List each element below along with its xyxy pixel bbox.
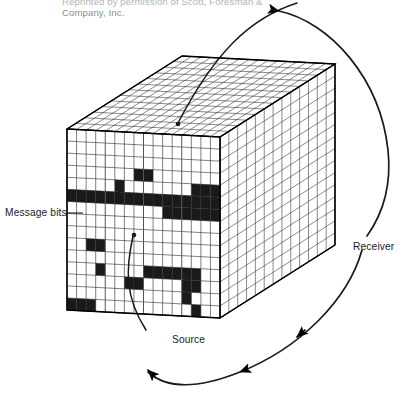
figure-root: Reprinted by permission of Scott, Foresm… — [0, 0, 404, 406]
label-source: Source — [172, 334, 205, 345]
message-bit-cell — [96, 191, 106, 204]
message-bit-cell — [77, 298, 87, 311]
message-bit-cell — [182, 280, 192, 293]
message-bit-cell — [210, 209, 220, 222]
message-bit-cell — [86, 239, 96, 252]
message-bit-cell — [201, 184, 211, 197]
message-bit-cell — [182, 268, 192, 281]
message-bit-cell — [182, 292, 192, 305]
message-bit-cell — [210, 185, 220, 198]
message-bit-cell — [153, 266, 163, 279]
message-bit-cell — [105, 191, 115, 204]
message-bit-cell — [153, 194, 163, 207]
message-bit-cell — [67, 298, 77, 311]
message-bit-cell — [77, 190, 87, 203]
message-bit-cell — [191, 304, 201, 317]
message-bit-cell — [144, 169, 154, 182]
message-bit-cell — [163, 267, 173, 280]
message-bit-cell — [182, 207, 192, 220]
message-bit-cell — [144, 266, 154, 279]
message-bit-cell — [134, 277, 144, 290]
message-bit-cell — [144, 193, 154, 206]
credit-line-2: Company, Inc. — [62, 7, 124, 18]
label-receiver: Receiver — [353, 241, 394, 252]
message-bit-cell — [182, 195, 192, 208]
message-bit-cell — [96, 239, 106, 252]
cube-front-face — [67, 129, 220, 318]
message-bit-cell — [86, 190, 96, 203]
message-bit-cell — [67, 189, 77, 202]
message-bit-cell — [201, 208, 211, 221]
message-bit-cell — [124, 192, 134, 205]
message-bit-cell — [191, 280, 201, 293]
message-bit-cell — [115, 180, 125, 193]
message-bit-cell — [191, 268, 201, 281]
message-bit-cell — [163, 194, 173, 207]
message-bit-cell — [86, 299, 96, 312]
label-message-bits: Message bits — [5, 207, 67, 218]
message-bit-cell — [163, 206, 173, 219]
message-bit-cell — [191, 196, 201, 209]
message-bit-cell — [96, 263, 106, 276]
message-bit-cell — [201, 196, 211, 209]
message-bit-cell — [172, 267, 182, 280]
message-bit-cell — [134, 169, 144, 182]
message-bit-cell — [172, 207, 182, 220]
message-bit-cell — [191, 208, 201, 221]
message-bit-cell — [134, 193, 144, 206]
cube-diagram-svg — [0, 0, 404, 406]
message-bit-cell — [115, 192, 125, 205]
message-bit-cell — [210, 197, 220, 210]
message-bit-cell — [191, 184, 201, 197]
credit-line-1: Reprinted by permission of Scott, Foresm… — [62, 0, 263, 7]
message-bit-cell — [172, 195, 182, 208]
